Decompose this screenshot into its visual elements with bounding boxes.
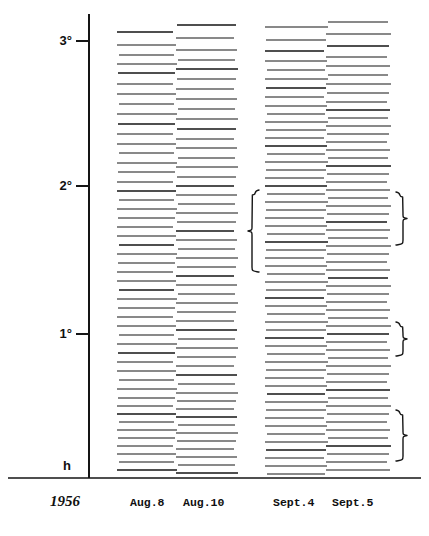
caption-year: 1956	[50, 493, 81, 509]
axis-tick-label-0: 3°	[60, 33, 72, 48]
plot-canvas: 3°2°1° h 1956 Aug.8Aug.10Sept.4Sept.5	[0, 0, 429, 536]
caption-date-2: Sept.4	[273, 496, 315, 509]
caption-date-3: Sept.5	[332, 496, 374, 509]
spectral-line-figure: 3°2°1° h 1956 Aug.8Aug.10Sept.4Sept.5	[0, 0, 429, 536]
paper-background	[0, 0, 429, 536]
caption-date-0: Aug.8	[130, 496, 165, 509]
axis-tick-label-2: 1°	[60, 326, 72, 341]
origin-label-h: h	[63, 458, 71, 473]
caption-date-1: Aug.10	[183, 496, 225, 509]
axis-tick-label-1: 2°	[60, 178, 72, 193]
